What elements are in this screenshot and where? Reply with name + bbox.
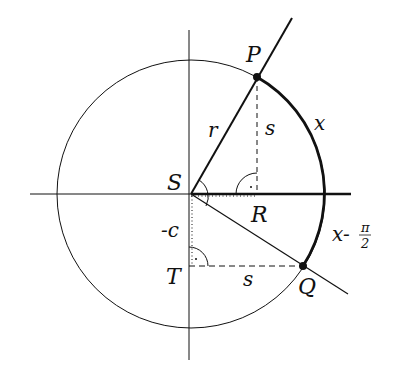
label-two: 2	[360, 236, 369, 251]
label-s-vertical: s	[265, 116, 275, 140]
label-t: T	[166, 264, 183, 289]
point-q	[299, 262, 307, 270]
label-pi: π	[360, 220, 370, 235]
label-neg-c: -c	[161, 218, 179, 242]
label-s-horizontal: s	[243, 267, 253, 291]
label-p: P	[245, 42, 262, 67]
label-r-point: R	[250, 202, 268, 227]
label-x-minus: x-	[332, 222, 350, 246]
label-q: Q	[298, 274, 316, 299]
point-p	[253, 73, 261, 81]
right-angle-dot-t	[195, 258, 197, 260]
right-angle-r	[236, 173, 257, 194]
right-angle-dot-r	[250, 186, 252, 188]
label-x: x	[314, 111, 325, 135]
arc-pq	[257, 77, 324, 266]
label-radius: r	[208, 118, 219, 142]
ray-sp	[191, 18, 292, 194]
label-s: S	[167, 170, 182, 195]
diagram-canvas: P Q S R T r s s x -c x- π 2	[0, 0, 394, 378]
